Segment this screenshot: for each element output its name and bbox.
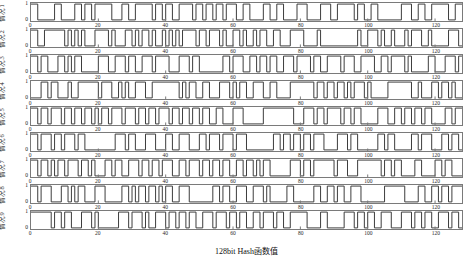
y-tick-label-0: 0 — [21, 172, 28, 178]
row-label: 情况1 — [0, 0, 14, 26]
waveform-svg — [31, 185, 462, 203]
y-tick-label-1: 1 — [21, 52, 28, 58]
y-tick-label-0: 0 — [21, 16, 28, 22]
hash-row: 情况3 1 0 020406080100120 — [0, 54, 472, 80]
row-label: 情况4 — [0, 78, 14, 104]
y-tick-label-1: 1 — [21, 130, 28, 136]
x-tick-label: 0 — [29, 230, 32, 236]
y-tick-label-0: 0 — [21, 198, 28, 204]
waveform-path — [31, 82, 462, 98]
y-tick-label-0: 0 — [21, 68, 28, 74]
y-tick-label-1: 1 — [21, 0, 28, 6]
row-label: 情况9 — [0, 208, 14, 234]
waveform-svg — [31, 3, 462, 21]
y-tick-label-0: 0 — [21, 94, 28, 100]
waveform-plot — [30, 210, 463, 230]
y-tick-label-1: 1 — [21, 104, 28, 110]
hash-sensitivity-chart: 情况1 1 0 020406080100120 情况2 1 0 02040608… — [0, 0, 472, 259]
waveform-plot — [30, 132, 463, 152]
y-tick-label-1: 1 — [21, 156, 28, 162]
hash-row: 情况4 1 0 020406080100120 — [0, 80, 472, 106]
hash-row: 情况1 1 0 020406080100120 — [0, 2, 472, 28]
hash-row: 情况8 1 0 020406080100120 — [0, 184, 472, 210]
waveform-path — [31, 186, 462, 202]
hash-row: 情况5 1 0 020406080100120 — [0, 106, 472, 132]
row-label: 情况7 — [0, 156, 14, 182]
row-label: 情况2 — [0, 26, 14, 52]
waveform-svg — [31, 159, 462, 177]
waveform-path — [31, 108, 462, 124]
x-axis-title: 128bit Hash函数值 — [30, 245, 463, 256]
row-label: 情况3 — [0, 52, 14, 78]
row-label: 情况8 — [0, 182, 14, 208]
y-tick-label-1: 1 — [21, 78, 28, 84]
y-tick-label-0: 0 — [21, 120, 28, 126]
waveform-svg — [31, 55, 462, 73]
waveform-plot — [30, 80, 463, 100]
hash-row: 情况2 1 0 020406080100120 — [0, 28, 472, 54]
waveform-path — [31, 30, 462, 46]
waveform-plot — [30, 28, 463, 48]
y-tick-label-0: 0 — [21, 146, 28, 152]
waveform-path — [31, 4, 462, 20]
y-tick-label-0: 0 — [21, 224, 28, 230]
waveform-plot — [30, 106, 463, 126]
waveform-svg — [31, 107, 462, 125]
waveform-svg — [31, 133, 462, 151]
hash-row: 情况6 1 0 020406080100120 — [0, 132, 472, 158]
waveform-svg — [31, 211, 462, 229]
y-tick-label-1: 1 — [21, 182, 28, 188]
hash-row: 情况9 1 0 020406080100120 — [0, 210, 472, 236]
x-tick-label: 100 — [364, 230, 372, 236]
row-label: 情况5 — [0, 104, 14, 130]
x-tick-label: 40 — [163, 230, 169, 236]
waveform-plot — [30, 2, 463, 22]
waveform-plot — [30, 54, 463, 74]
waveform-path — [31, 160, 462, 176]
waveform-plot — [30, 158, 463, 178]
x-tick-label: 80 — [298, 230, 304, 236]
waveform-svg — [31, 29, 462, 47]
y-tick-label-0: 0 — [21, 42, 28, 48]
waveform-plot — [30, 184, 463, 204]
x-tick-label: 20 — [95, 230, 101, 236]
y-tick-label-1: 1 — [21, 26, 28, 32]
y-tick-label-1: 1 — [21, 208, 28, 214]
x-tick-label: 60 — [230, 230, 236, 236]
waveform-path — [31, 212, 462, 228]
x-tick-label: 120 — [432, 230, 440, 236]
row-label: 情况6 — [0, 130, 14, 156]
x-ticks: 020406080100120 — [30, 230, 463, 236]
waveform-svg — [31, 81, 462, 99]
rows: 情况1 1 0 020406080100120 情况2 1 0 02040608… — [0, 2, 472, 236]
hash-row: 情况7 1 0 020406080100120 — [0, 158, 472, 184]
waveform-path — [31, 134, 462, 150]
waveform-path — [31, 56, 462, 72]
